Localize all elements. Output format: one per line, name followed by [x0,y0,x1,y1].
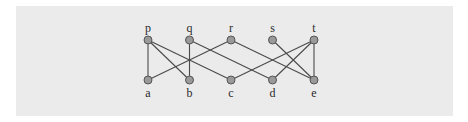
node-s [269,36,277,44]
node-t [310,36,318,44]
node-q [186,36,194,44]
bipartite-graph: pqrstabcde [0,0,468,122]
edge-p-b [148,40,190,80]
node-label-a: a [145,86,151,100]
node-label-e: e [311,86,316,100]
figure-canvas: pqrstabcde [0,0,468,122]
node-label-t: t [312,21,316,35]
node-e [310,76,318,84]
node-label-q: q [187,21,193,35]
node-label-c: c [228,86,233,100]
node-label-p: p [145,21,151,35]
edge-q-d [190,40,273,80]
edge-layer [148,40,314,80]
node-a [144,76,152,84]
node-d [269,76,277,84]
node-c [227,76,235,84]
node-b [186,76,194,84]
node-p [144,36,152,44]
node-label-r: r [229,21,233,35]
node-label-b: b [187,86,193,100]
node-label-s: s [270,21,275,35]
node-r [227,36,235,44]
node-label-d: d [270,86,276,100]
